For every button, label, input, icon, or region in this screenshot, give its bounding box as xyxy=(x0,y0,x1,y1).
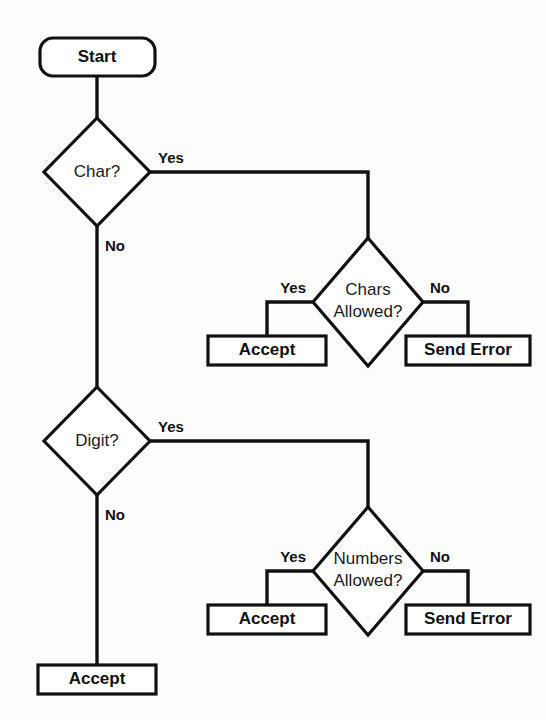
node-numbers-allowed-decision-label-line1: Numbers xyxy=(334,549,403,568)
node-char-decision-label: Char? xyxy=(74,162,120,181)
flowchart-svg: Start Char? Yes No Chars Allowed? Yes No… xyxy=(0,0,546,720)
edge-label-char-yes: Yes xyxy=(158,149,184,166)
node-accept-chars-label: Accept xyxy=(239,340,296,359)
connector-numbers-allowed-no-to-send-error xyxy=(423,571,468,605)
node-chars-allowed-decision-label-line2: Allowed? xyxy=(334,302,403,321)
node-accept-final[interactable]: Accept xyxy=(38,665,156,694)
connector-digit-yes-to-numbers-allowed xyxy=(150,441,368,507)
connector-chars-allowed-no-to-send-error xyxy=(423,302,468,336)
node-char-decision[interactable]: Char? xyxy=(44,118,150,226)
node-accept-numbers[interactable]: Accept xyxy=(208,605,326,634)
edge-label-chars-allowed-yes: Yes xyxy=(280,279,306,296)
node-numbers-allowed-decision-label-line2: Allowed? xyxy=(334,571,403,590)
flowchart-canvas: Start Char? Yes No Chars Allowed? Yes No… xyxy=(0,0,546,720)
node-send-error-chars[interactable]: Send Error xyxy=(406,336,530,365)
node-digit-decision-label: Digit? xyxy=(75,431,118,450)
edge-label-digit-yes: Yes xyxy=(158,418,184,435)
edge-label-numbers-allowed-yes: Yes xyxy=(280,548,306,565)
node-start-label: Start xyxy=(78,47,117,66)
edge-label-char-no: No xyxy=(105,237,125,254)
node-start[interactable]: Start xyxy=(40,38,155,76)
edge-label-digit-no: No xyxy=(105,506,125,523)
connector-chars-allowed-yes-to-accept xyxy=(267,302,313,336)
node-accept-final-label: Accept xyxy=(69,669,126,688)
connector-numbers-allowed-yes-to-accept xyxy=(267,571,313,605)
edge-label-chars-allowed-no: No xyxy=(430,279,450,296)
node-send-error-chars-label: Send Error xyxy=(424,340,512,359)
node-chars-allowed-decision-label-line1: Chars xyxy=(345,280,390,299)
edge-label-numbers-allowed-no: No xyxy=(430,548,450,565)
node-send-error-numbers[interactable]: Send Error xyxy=(406,605,530,634)
node-digit-decision[interactable]: Digit? xyxy=(44,387,150,495)
node-send-error-numbers-label: Send Error xyxy=(424,609,512,628)
node-accept-chars[interactable]: Accept xyxy=(208,336,326,365)
node-accept-numbers-label: Accept xyxy=(239,609,296,628)
connector-char-yes-to-chars-allowed xyxy=(150,172,368,238)
